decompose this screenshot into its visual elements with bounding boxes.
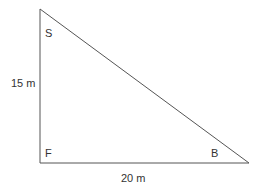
vertex-label-s: S	[45, 27, 52, 39]
hypotenuse-line	[40, 9, 249, 163]
side-label-vertical: 15 m	[11, 77, 35, 89]
vertex-label-b: B	[211, 147, 218, 159]
side-label-horizontal: 20 m	[121, 172, 145, 184]
right-triangle-diagram: S F B 15 m 20 m	[0, 0, 263, 189]
vertex-label-f: F	[45, 147, 52, 159]
